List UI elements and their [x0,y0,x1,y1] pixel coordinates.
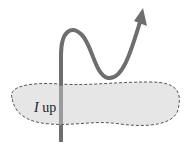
current-label: I up [34,100,56,116]
wire-upper-curve [61,22,140,84]
arrowhead-icon [134,8,147,26]
current-direction: up [42,100,56,115]
diagram-canvas [0,0,191,152]
current-symbol: I [34,100,39,115]
